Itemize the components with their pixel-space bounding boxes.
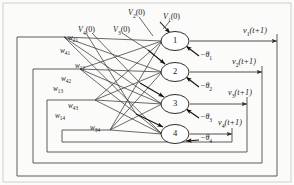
threshold-label-4: −θ4 <box>200 133 212 144</box>
output-label-v4: v4(t+1) <box>218 118 242 129</box>
output-arg-v2: (t+1) <box>239 57 256 66</box>
neuron-label-4: 4 <box>167 128 183 138</box>
weight-label-w42: w42 <box>61 75 71 84</box>
threshold-label-2: −θ2 <box>200 81 212 92</box>
threshold-label-1: −θ1 <box>200 50 212 61</box>
output-arg-v4: (t+1) <box>225 118 242 127</box>
weight-index-w41: 41 <box>65 50 70 56</box>
output-label-v3: v3(t+1) <box>228 88 252 99</box>
weight-label-w12: w12 <box>75 62 85 71</box>
input-arrow-v2 <box>148 50 165 64</box>
weight-label-w14: w14 <box>55 112 65 121</box>
figure-canvas: 1 2 3 4 V4(0) V3(0) V2(0) V1(0) v1(t+1) … <box>0 0 294 185</box>
threshold-text-2: −θ <box>200 81 209 90</box>
weight-label-w41: w41 <box>60 47 70 56</box>
weight-label-w21: w21 <box>68 34 78 43</box>
threshold-index-2: 2 <box>209 86 212 92</box>
weight-index-w34: 34 <box>95 127 100 133</box>
weight-index-w14: 14 <box>60 115 65 121</box>
weight-label-w34: w34 <box>90 124 100 133</box>
input-arrow-v3 <box>140 83 164 97</box>
threshold-index-1: 1 <box>209 55 212 61</box>
input-arg-v3: (0) <box>121 25 130 34</box>
threshold-arrow-2 <box>186 77 199 87</box>
threshold-arrow-3 <box>186 109 199 118</box>
weight-label-w13: w13 <box>53 85 63 94</box>
threshold-text-1: −θ <box>200 50 209 59</box>
input-label-v2: V2(0) <box>128 8 145 19</box>
weight-index-w21: 21 <box>73 37 78 43</box>
threshold-arrow-1 <box>186 46 199 56</box>
feedback-loop-1 <box>17 34 277 176</box>
weight-index-w12: 12 <box>80 65 85 71</box>
output-arg-v1: (t+1) <box>250 26 267 35</box>
input-arg-v4: (0) <box>86 25 95 34</box>
input-arrow-v4 <box>136 114 163 127</box>
output-label-v2: v2(t+1) <box>232 57 256 68</box>
input-arg-v1: (0) <box>171 12 180 21</box>
output-label-v1: v1(t+1) <box>243 26 267 37</box>
output-arg-v3: (t+1) <box>235 88 252 97</box>
input-label-v4: V4(0) <box>78 25 95 36</box>
threshold-index-4: 4 <box>209 138 212 144</box>
threshold-label-3: −θ3 <box>200 112 212 123</box>
input-label-v1: V1(0) <box>163 12 180 23</box>
neuron-label-2: 2 <box>167 66 183 76</box>
weight-index-w42: 42 <box>66 78 71 84</box>
input-arrow-v1 <box>160 22 170 33</box>
threshold-arrow-4 <box>186 140 199 141</box>
weight-index-w43: 43 <box>73 105 78 111</box>
threshold-index-3: 3 <box>209 117 212 123</box>
neuron-label-1: 1 <box>167 35 183 45</box>
weight-label-w43: w43 <box>68 102 78 111</box>
threshold-text-4: −θ <box>200 133 209 142</box>
neuron-label-3: 3 <box>167 98 183 108</box>
threshold-text-3: −θ <box>200 112 209 121</box>
input-label-v3: V3(0) <box>113 25 130 36</box>
weight-index-w13: 13 <box>58 88 63 94</box>
input-arg-v2: (0) <box>136 8 145 17</box>
